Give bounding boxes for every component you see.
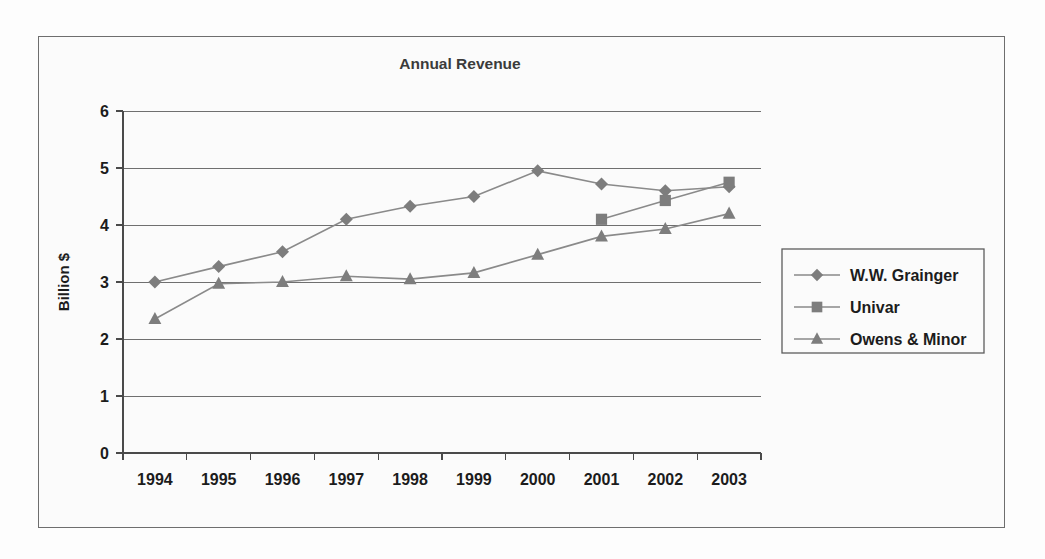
x-tick-label: 1999: [456, 471, 492, 488]
diamond-marker: [276, 245, 289, 258]
y-tick-label: 4: [100, 217, 109, 234]
diamond-marker: [340, 213, 353, 226]
x-tick-labels: 1994199519961997199819992000200120022003: [123, 453, 761, 488]
square-marker: [660, 195, 671, 206]
x-tick-label: 1994: [137, 471, 173, 488]
square-marker: [812, 302, 823, 313]
series-line: [155, 214, 729, 319]
triangle-marker: [148, 312, 161, 324]
annual-revenue-line-chart: Annual Revenue 0123456 19941995199619971…: [39, 37, 1006, 529]
series-line: [155, 171, 729, 282]
chart-title: Annual Revenue: [399, 55, 521, 72]
y-tick-label: 6: [100, 103, 109, 120]
diamond-marker: [467, 190, 480, 203]
y-tick-label: 2: [100, 331, 109, 348]
y-tick-label: 0: [100, 445, 109, 462]
diamond-marker: [595, 177, 608, 190]
x-tick-label: 2000: [520, 471, 556, 488]
diamond-marker: [404, 200, 417, 213]
y-axis-label: Billion $: [55, 252, 72, 311]
x-tick-label: 2002: [648, 471, 684, 488]
x-tick-label: 1997: [329, 471, 365, 488]
x-tick-label: 2003: [711, 471, 747, 488]
y-tick-label: 3: [100, 274, 109, 291]
diamond-marker: [531, 164, 544, 177]
diamond-marker: [212, 260, 225, 273]
diamond-marker: [148, 276, 161, 289]
triangle-marker: [212, 277, 225, 289]
x-tick-label: 1995: [201, 471, 237, 488]
x-tick-label: 1998: [392, 471, 428, 488]
x-tick-label: 1996: [265, 471, 301, 488]
triangle-marker: [723, 207, 736, 219]
square-marker: [596, 214, 607, 225]
figure-frame: Annual Revenue 0123456 19941995199619971…: [38, 36, 1005, 528]
data-series-group: [148, 164, 735, 324]
legend-label[interactable]: W.W. Grainger: [850, 267, 958, 284]
triangle-marker: [340, 269, 353, 281]
chart-legend[interactable]: W.W. GraingerUnivarOwens & Minor: [782, 249, 984, 353]
legend-label[interactable]: Univar: [850, 299, 900, 316]
y-tick-labels: 0123456: [100, 103, 123, 462]
square-marker: [724, 177, 735, 188]
y-tick-label: 5: [100, 160, 109, 177]
x-tick-label: 2001: [584, 471, 620, 488]
y-tick-label: 1: [100, 388, 109, 405]
legend-label[interactable]: Owens & Minor: [850, 331, 966, 348]
chart-page: Annual Revenue 0123456 19941995199619971…: [0, 0, 1045, 559]
